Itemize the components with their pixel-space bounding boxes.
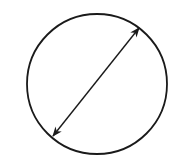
diameter-arrow [53, 28, 139, 136]
circle [27, 14, 167, 154]
diagram-canvas [0, 0, 181, 166]
